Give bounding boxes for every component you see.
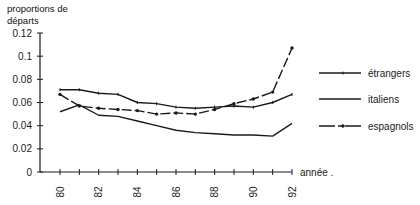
- data-point-marker: [232, 102, 235, 105]
- y-tick-label: 0.08: [13, 74, 33, 85]
- data-point-marker: [97, 107, 100, 110]
- x-tick-label: 88: [209, 186, 220, 198]
- data-point-marker: [78, 104, 81, 107]
- x-tick-label: 92: [287, 186, 298, 198]
- y-tick-label: 0.1: [18, 51, 32, 62]
- data-point-marker: [116, 108, 119, 111]
- legend-label-étrangers: étrangers: [368, 68, 410, 79]
- y-tick-label: 0.02: [13, 143, 33, 154]
- data-point-marker: [136, 109, 139, 112]
- data-point-marker: [252, 97, 255, 100]
- y-tick-label: 0.04: [13, 120, 33, 131]
- x-tick-label: 82: [93, 186, 104, 198]
- x-axis-title: année .: [300, 167, 333, 178]
- axes: 00.020.040.060.080.10.1280828486889092an…: [13, 28, 334, 198]
- series-line-italiens: [60, 105, 292, 136]
- legend: étrangersitaliensespagnols: [319, 68, 414, 132]
- data-point-marker: [174, 111, 177, 114]
- y-tick-label: 0.12: [13, 28, 33, 39]
- legend-label-espagnols: espagnols: [368, 121, 414, 132]
- series-line-étrangers: [60, 90, 292, 109]
- series-lines: [58, 46, 293, 136]
- legend-marker: [341, 124, 344, 127]
- data-point-marker: [290, 46, 293, 49]
- x-tick-label: 86: [171, 186, 182, 198]
- data-point-marker: [194, 112, 197, 115]
- y-tick-label: 0.06: [13, 97, 33, 108]
- x-tick-label: 90: [248, 186, 259, 198]
- series-line-espagnols: [60, 48, 292, 114]
- x-tick-label: 84: [132, 186, 143, 198]
- data-point-marker: [213, 108, 216, 111]
- x-tick-label: 80: [55, 186, 66, 198]
- data-point-marker: [155, 112, 158, 115]
- line-chart: 00.020.040.060.080.10.1280828486889092an…: [0, 0, 420, 205]
- data-point-marker: [271, 90, 274, 93]
- y-tick-label: 0: [26, 167, 32, 178]
- legend-label-italiens: italiens: [368, 94, 399, 105]
- data-point-marker: [58, 93, 61, 96]
